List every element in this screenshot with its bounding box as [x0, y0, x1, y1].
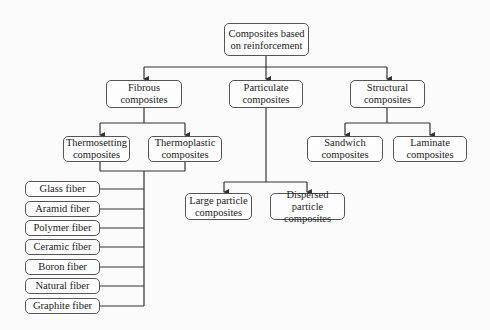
node-large-particle: Large particle composites [185, 193, 252, 220]
node-thermoplastic: Thermoplastic composites [148, 136, 222, 162]
node-label: Glass fiber [40, 183, 86, 195]
node-label: Structural composites [351, 82, 424, 106]
node-label: Boron fiber [38, 261, 87, 273]
node-structural: Structural composites [350, 80, 425, 108]
node-aramid-fiber: Aramid fiber [25, 201, 100, 217]
node-polymer-fiber: Polymer fiber [25, 220, 100, 236]
node-fibrous: Fibrous composites [106, 80, 182, 108]
node-label: Large particle composites [186, 195, 251, 219]
node-label: Laminate composites [394, 137, 466, 161]
node-label: Sandwich composites [308, 137, 382, 161]
node-boron-fiber: Boron fiber [25, 259, 100, 275]
node-laminate: Laminate composites [393, 136, 467, 162]
node-label: Thermoplastic composites [149, 137, 221, 161]
node-label: Graphite fiber [33, 300, 92, 312]
node-dispersed-particle: Dispersed particle composites [270, 193, 345, 220]
node-label: Aramid fiber [35, 203, 90, 215]
node-sandwich: Sandwich composites [307, 136, 383, 162]
node-particulate: Particulate composites [229, 80, 303, 108]
node-label: Thermosetting composites [64, 137, 129, 161]
node-label: Dispersed particle composites [271, 189, 344, 225]
node-label: Fibrous composites [107, 82, 181, 106]
node-glass-fiber: Glass fiber [25, 181, 100, 197]
node-ceramic-fiber: Ceramic fiber [25, 239, 100, 255]
node-natural-fiber: Natural fiber [25, 278, 100, 294]
node-label: Particulate composites [230, 82, 302, 106]
node-thermosetting: Thermosetting composites [63, 136, 130, 162]
node-label: Composites based on reinforcement [225, 28, 308, 52]
node-graphite-fiber: Graphite fiber [25, 298, 100, 314]
node-label: Ceramic fiber [33, 241, 91, 253]
node-label: Natural fiber [36, 280, 90, 292]
node-label: Polymer fiber [33, 222, 91, 234]
node-root: Composites based on reinforcement [224, 23, 309, 56]
